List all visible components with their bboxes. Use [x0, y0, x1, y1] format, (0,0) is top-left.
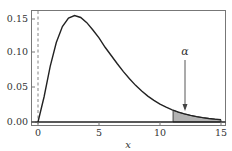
x-axis-label: x — [125, 139, 131, 150]
x-tick-label-15: 15 — [215, 127, 227, 138]
x-tick-label-0: 0 — [35, 127, 41, 138]
x-tick-label-5: 5 — [96, 127, 102, 138]
plot-frame — [32, 11, 226, 126]
y-tick-label-0.05: 0.05 — [7, 81, 28, 92]
alpha-arrow-head-icon — [183, 104, 188, 111]
y-tick-label-0.15: 0.15 — [7, 13, 28, 24]
y-axis-ticks — [32, 19, 36, 122]
density-curve — [38, 16, 221, 122]
y-tick-label-0.10: 0.10 — [7, 46, 28, 57]
x-tick-label-10: 10 — [154, 127, 166, 138]
alpha-annotation-label: α — [181, 45, 189, 58]
chi-square-density-chart: 0.15 0.10 0.05 0.00 0 5 10 15 x α — [0, 0, 232, 151]
y-tick-label-0.00: 0.00 — [7, 116, 28, 127]
